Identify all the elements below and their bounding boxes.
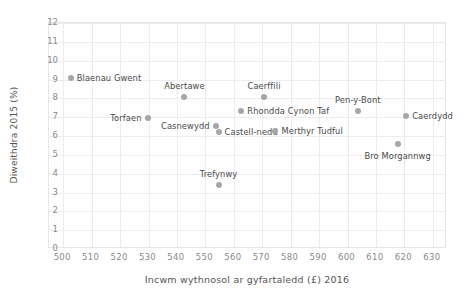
x-tick-label: 550 <box>196 252 213 262</box>
x-tick-label: 600 <box>338 252 355 262</box>
gridline-vertical <box>120 23 121 247</box>
scatter-chart: 5005105205305405505605705805906006106206… <box>0 0 470 306</box>
x-tick-label: 570 <box>253 252 270 262</box>
x-tick-label: 560 <box>224 252 241 262</box>
gridline-horizontal <box>49 42 445 43</box>
y-tick-label: 1 <box>53 224 58 234</box>
x-tick-label: 580 <box>281 252 298 262</box>
data-point-label: Merthyr Tudful <box>281 126 342 136</box>
data-point-label: Casnewydd <box>161 121 210 131</box>
data-point-label: Blaenau Gwent <box>77 73 142 83</box>
gridline-vertical <box>177 23 178 247</box>
x-tick-label: 590 <box>310 252 327 262</box>
data-point[interactable] <box>355 108 361 114</box>
x-axis-title: Incwm wythnosol ar gyfartaledd (£) 2016 <box>48 274 446 285</box>
gridline-horizontal <box>49 61 445 62</box>
x-tick-label: 510 <box>82 252 99 262</box>
data-point-label: Pen-y-Bont <box>335 95 381 105</box>
gridline-vertical <box>433 23 434 247</box>
data-point-label: Caerdydd <box>412 111 453 121</box>
data-point-label: Abertawe <box>164 81 205 91</box>
y-tick-label: 5 <box>53 149 58 159</box>
x-tick-label: 630 <box>423 252 440 262</box>
x-tick-label: 530 <box>139 252 156 262</box>
data-point[interactable] <box>216 182 222 188</box>
y-tick-label: 10 <box>47 55 58 65</box>
gridline-vertical <box>149 23 150 247</box>
x-tick-label: 620 <box>395 252 412 262</box>
gridline-horizontal <box>49 117 445 118</box>
data-point[interactable] <box>145 115 151 121</box>
data-point[interactable] <box>213 123 219 129</box>
gridline-horizontal <box>49 174 445 175</box>
y-tick-label: 2 <box>53 205 58 215</box>
y-tick-label: 4 <box>53 168 58 178</box>
gridline-vertical <box>376 23 377 247</box>
gridline-vertical <box>348 23 349 247</box>
data-point-label: Rhondda Cynon Taf <box>247 106 329 116</box>
gridline-horizontal <box>49 211 445 212</box>
data-point-label: Bro Morgannwg <box>364 151 430 161</box>
data-point[interactable] <box>238 108 244 114</box>
gridline-vertical <box>404 23 405 247</box>
y-tick-label: 6 <box>53 130 58 140</box>
data-point[interactable] <box>216 129 222 135</box>
data-point-label: Castell-nedd <box>225 127 278 137</box>
data-point-label: Torfaen <box>110 113 141 123</box>
y-tick-label: 3 <box>53 187 58 197</box>
x-tick-label: 500 <box>54 252 71 262</box>
gridline-vertical <box>92 23 93 247</box>
gridline-vertical <box>205 23 206 247</box>
gridline-horizontal <box>49 230 445 231</box>
x-tick-label: 520 <box>111 252 128 262</box>
y-tick-label: 8 <box>53 92 58 102</box>
y-tick-label: 7 <box>53 111 58 121</box>
data-point-label: Trefynwy <box>200 169 238 179</box>
gridline-horizontal <box>49 23 445 24</box>
gridline-horizontal <box>49 193 445 194</box>
x-tick-label: 540 <box>167 252 184 262</box>
gridline-vertical <box>63 23 64 247</box>
x-tick-label: 610 <box>366 252 383 262</box>
y-tick-label: 11 <box>47 36 58 46</box>
y-tick-label: 12 <box>47 17 58 27</box>
gridline-horizontal <box>49 98 445 99</box>
y-axis-title: Diweithdra 2015 (%) <box>9 87 19 184</box>
data-point-label: Caerffili <box>248 81 281 91</box>
y-tick-label: 9 <box>53 74 58 84</box>
y-tick-label: 0 <box>53 243 58 253</box>
data-point[interactable] <box>68 75 74 81</box>
